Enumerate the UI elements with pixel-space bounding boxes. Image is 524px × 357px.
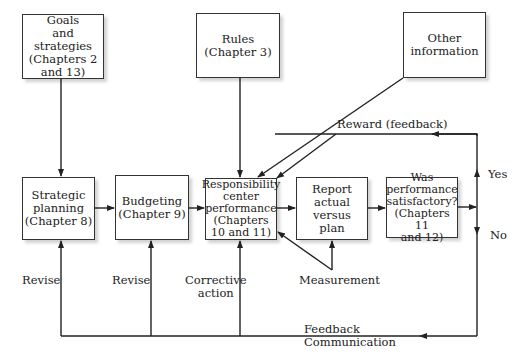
measurement-label: Measurement (299, 274, 380, 287)
rules-box: Rules (Chapter 3) (196, 13, 280, 78)
reward-label: Reward (feedback) (337, 118, 448, 131)
corrective-action-label: Corrective action (185, 274, 247, 300)
revise-label-1: Revise (22, 274, 60, 287)
other-information-box: Other information (403, 12, 486, 78)
goals-box: Goals and strategies (Chapters 2 and 13) (22, 14, 104, 79)
feedback-communication-label: Feedback Communication (304, 323, 396, 349)
satisfactory-box: Was performance satisfactory? (Chapters … (386, 177, 458, 238)
no-label: No (490, 229, 507, 242)
yes-label: Yes (488, 168, 507, 181)
responsibility-box: Responsibility center performance (Chapt… (205, 178, 277, 240)
budgeting-box: Budgeting (Chapter 9) (115, 175, 189, 240)
revise-label-2: Revise (112, 274, 150, 287)
strategic-planning-box: Strategic planning (Chapter 8) (22, 177, 95, 240)
report-box: Report actual versus plan (296, 177, 368, 240)
